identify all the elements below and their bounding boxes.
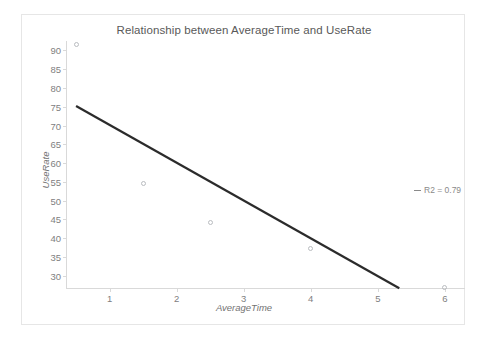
y-tick-mark [63,238,66,239]
y-tick-label: 90 [50,45,61,56]
y-tick-mark [63,88,66,89]
trendline-layer [66,41,465,289]
y-tick-mark [63,163,66,164]
scatter-point[interactable] [141,181,146,186]
y-tick-label: 65 [50,139,61,150]
y-tick-label: 50 [50,195,61,206]
y-tick-mark [63,276,66,277]
top-cut-off-text-row [0,0,487,11]
y-tick-mark [63,257,66,258]
x-tick-mark [177,289,178,292]
scatter-point[interactable] [442,285,447,290]
y-tick-mark [63,126,66,127]
y-tick-label: 60 [50,158,61,169]
x-tick-mark [311,289,312,292]
x-tick-label: 1 [107,293,112,304]
x-tick-mark [378,289,379,292]
chart-title: Relationship between AverageTime and Use… [22,24,466,36]
x-tick-label: 6 [442,293,447,304]
legend[interactable]: R2 = 0.79 [414,185,461,195]
y-tick-mark [63,201,66,202]
plot-area[interactable]: 30354045505560657075808590123456 [66,41,465,289]
scatter-point[interactable] [74,42,79,47]
y-tick-mark [63,182,66,183]
x-tick-label: 3 [241,293,246,304]
legend-label-r2: R2 = 0.79 [424,185,461,195]
y-tick-mark [63,50,66,51]
y-tick-label: 75 [50,101,61,112]
y-tick-label: 70 [50,120,61,131]
y-tick-mark [63,219,66,220]
scatter-point[interactable] [208,220,213,225]
y-tick-label: 30 [50,270,61,281]
y-tick-label: 80 [50,82,61,93]
screenshot-root: Relationship between AverageTime and Use… [0,0,487,342]
y-tick-label: 85 [50,64,61,75]
y-tick-mark [63,107,66,108]
y-tick-label: 35 [50,252,61,263]
y-axis-title: UseRate [40,151,51,188]
legend-line-marker-icon [414,190,421,191]
trendline [76,106,399,288]
x-tick-label: 5 [375,293,380,304]
y-tick-label: 55 [50,176,61,187]
x-tick-label: 2 [174,293,179,304]
chart-container[interactable]: Relationship between AverageTime and Use… [21,14,465,325]
y-tick-label: 45 [50,214,61,225]
y-tick-mark [63,69,66,70]
x-tick-mark [110,289,111,292]
x-tick-label: 4 [308,293,313,304]
y-tick-label: 40 [50,233,61,244]
x-tick-mark [244,289,245,292]
y-tick-mark [63,144,66,145]
